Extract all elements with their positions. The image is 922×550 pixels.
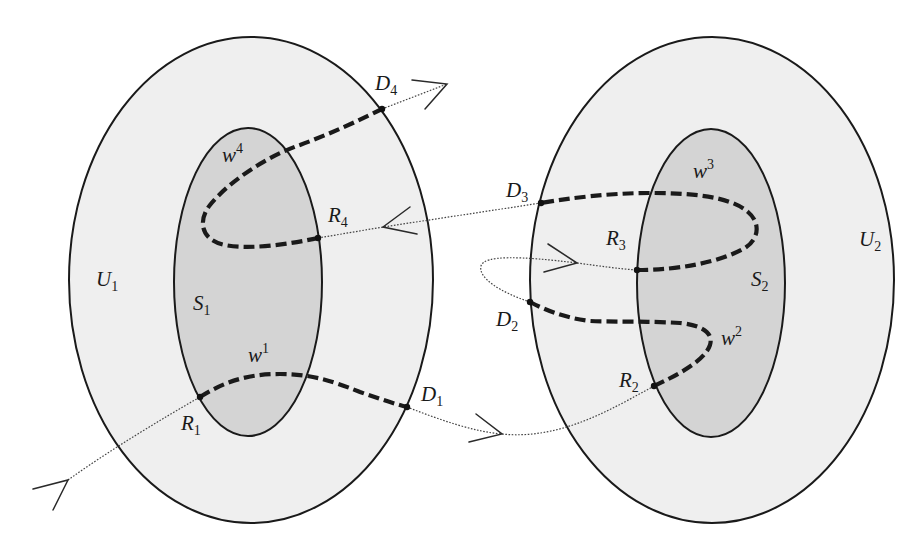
diagram-svg: U1 S1 U2 S2 R1 D1 R2 D2 R3 D3 R4 D4 w1 w… (0, 0, 922, 550)
point-R3 (634, 267, 640, 273)
label-D1: D1 (420, 382, 443, 409)
arrowhead-start-icon (33, 480, 68, 510)
point-D4 (379, 106, 385, 112)
region-S1 (174, 128, 322, 436)
right-set-group (530, 37, 894, 523)
label-D4: D4 (374, 71, 397, 98)
point-D1 (404, 404, 410, 410)
point-D2 (527, 299, 533, 305)
arrowhead-D1-R2-icon (469, 414, 502, 442)
point-R4 (315, 235, 321, 241)
label-D2: D2 (495, 307, 518, 334)
label-D3: D3 (505, 178, 528, 205)
point-R2 (651, 383, 657, 389)
point-D3 (538, 200, 544, 206)
diagram-canvas: U1 S1 U2 S2 R1 D1 R2 D2 R3 D3 R4 D4 w1 w… (0, 0, 922, 550)
arrowhead-end-icon (412, 80, 447, 109)
point-R1 (197, 394, 203, 400)
